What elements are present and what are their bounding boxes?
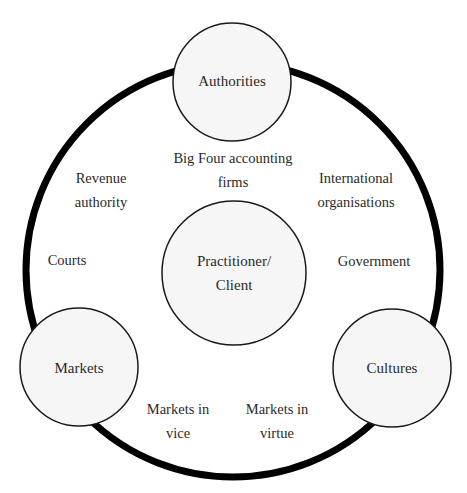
label-big-four: Big Four accounting firms — [173, 146, 292, 194]
label-markets-vice-line2: vice — [147, 421, 209, 445]
label-revenue-authority: Revenue authority — [75, 166, 127, 214]
label-international-organisations: International organisations — [317, 166, 394, 214]
label-international-line2: organisations — [317, 190, 394, 214]
label-practitioner-line1: Practitioner/ — [197, 249, 271, 273]
label-revenue-line2: authority — [75, 190, 127, 214]
label-revenue-line1: Revenue — [75, 166, 127, 190]
label-big-four-line1: Big Four accounting — [173, 146, 292, 170]
label-practitioner-client: Practitioner/ Client — [197, 249, 271, 297]
label-international-line1: International — [317, 166, 394, 190]
label-cultures: Cultures — [367, 356, 418, 380]
label-practitioner-line2: Client — [197, 273, 271, 297]
label-markets-vice-line1: Markets in — [147, 397, 209, 421]
label-markets-virtue-line2: virtue — [246, 421, 308, 445]
label-government: Government — [338, 249, 410, 273]
label-markets: Markets — [54, 356, 103, 380]
label-authorities: Authorities — [198, 69, 266, 93]
label-courts: Courts — [48, 248, 87, 272]
label-markets-in-virtue: Markets in virtue — [246, 397, 308, 445]
label-big-four-line2: firms — [173, 170, 292, 194]
label-markets-in-vice: Markets in vice — [147, 397, 209, 445]
label-markets-virtue-line1: Markets in — [246, 397, 308, 421]
